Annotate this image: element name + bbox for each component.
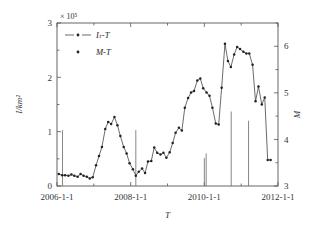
y2-tick-label: 4 <box>284 135 289 145</box>
y2-tick-label: 3 <box>284 181 289 191</box>
it-series-line <box>59 44 265 179</box>
it-series-point <box>70 173 73 176</box>
x-tick-label: 2010-1-1 <box>188 192 221 202</box>
it-series-point <box>116 124 119 127</box>
it-series-point <box>205 91 208 94</box>
it-series-point <box>171 142 174 145</box>
it-series-point <box>242 51 245 54</box>
y-tick-label: 0 <box>48 181 53 191</box>
it-series-point <box>174 132 177 135</box>
it-series-point <box>184 107 187 110</box>
it-series-point <box>178 127 181 130</box>
y2-tick-label: 6 <box>284 41 289 51</box>
it-series-point <box>199 77 202 80</box>
it-series-point <box>89 177 92 180</box>
it-series-point <box>138 171 141 174</box>
it-series-point <box>86 176 89 179</box>
it-series-point <box>257 85 260 88</box>
legend-label-mt: M-T <box>95 47 112 57</box>
it-series-point <box>132 168 135 171</box>
it-series-point <box>76 176 79 179</box>
it-series-point <box>95 164 98 167</box>
it-series-point <box>101 146 104 149</box>
x-tick-label: 2012-1-1 <box>262 192 295 202</box>
it-series-point <box>193 90 196 93</box>
it-series-point <box>98 155 101 158</box>
it-series-point <box>91 176 94 179</box>
it-series-point <box>220 86 223 89</box>
it-series-point <box>230 66 233 69</box>
it-series-point <box>67 174 70 177</box>
it-series-point <box>217 123 220 126</box>
it-series-point <box>181 129 184 132</box>
it-series-point <box>254 100 257 103</box>
y2-tick-label: 5 <box>284 88 289 98</box>
legend-marker-dot-mt <box>77 51 80 54</box>
it-series-point <box>156 152 159 155</box>
it-series-point <box>190 91 193 94</box>
it-series-point <box>251 64 254 67</box>
it-series-connector <box>265 97 268 159</box>
it-series-point <box>107 121 110 124</box>
legend-marker-dot <box>77 34 80 37</box>
legend-label-it: Iₜ-T <box>95 30 111 40</box>
x-tick-label: 2008-1-1 <box>114 192 147 202</box>
it-series-point <box>202 87 205 90</box>
it-series-point <box>61 174 64 177</box>
it-series-point <box>211 107 214 110</box>
it-series-point <box>79 173 82 176</box>
it-series-point <box>122 146 125 149</box>
it-series-point <box>196 79 199 82</box>
it-series-point <box>227 60 230 63</box>
it-series-point <box>239 48 242 51</box>
it-series-point <box>82 174 85 177</box>
it-series-point <box>128 162 131 165</box>
it-series-point <box>153 146 156 149</box>
it-series-point <box>119 135 122 138</box>
it-series-point <box>73 174 76 177</box>
it-series-point <box>162 152 165 155</box>
it-series-point <box>125 152 128 155</box>
it-series-point <box>165 156 168 159</box>
x-tick-label: 2006-1-1 <box>41 192 74 202</box>
it-series-point <box>104 128 107 131</box>
it-series-point <box>187 97 190 100</box>
it-series-point <box>110 123 113 126</box>
it-series-point <box>135 174 138 177</box>
it-series-point <box>168 151 171 154</box>
y-axis-exponent-label: × 10⁵ <box>60 12 78 21</box>
it-series-point <box>236 46 239 49</box>
y-tick-label: 3 <box>48 18 53 28</box>
it-series-point <box>64 174 67 177</box>
it-series-point <box>147 160 150 163</box>
it-series-point <box>144 172 147 175</box>
x-axis-title: T <box>165 210 171 220</box>
plot-frame <box>57 23 278 186</box>
it-series-point <box>113 116 116 119</box>
it-series-point <box>248 52 251 55</box>
y-tick-label: 1 <box>48 127 53 137</box>
y-axis-title: I/km² <box>14 95 24 115</box>
y2-axis-title: M <box>292 110 302 119</box>
y-tick-label: 2 <box>48 73 53 83</box>
it-series-point <box>261 103 264 106</box>
it-series-point <box>141 167 144 170</box>
it-series-point <box>215 122 218 125</box>
it-series-point <box>224 42 227 45</box>
it-series-point <box>233 53 236 56</box>
it-series-point <box>245 52 248 55</box>
it-series-point <box>150 160 153 163</box>
it-series-point <box>159 153 162 156</box>
it-series-point <box>208 95 211 98</box>
it-series-point <box>58 173 61 176</box>
chart-figure: 2006-1-12008-1-12010-1-12012-1-101233456… <box>0 0 319 241</box>
chart-canvas: 2006-1-12008-1-12010-1-12012-1-101233456… <box>0 0 319 241</box>
